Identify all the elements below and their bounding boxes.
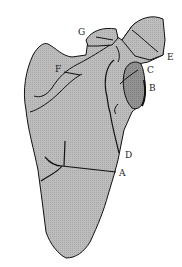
label-a: A bbox=[119, 169, 126, 178]
label-c: C bbox=[147, 66, 154, 75]
label-e: E bbox=[167, 53, 174, 62]
scapula-drawing bbox=[0, 0, 182, 267]
label-g: G bbox=[78, 28, 85, 37]
label-b: B bbox=[149, 84, 156, 93]
coracoid bbox=[86, 28, 118, 46]
label-d: D bbox=[125, 151, 132, 160]
scapula-diagram: G E F C B D A bbox=[0, 0, 182, 267]
label-f: F bbox=[55, 65, 61, 74]
